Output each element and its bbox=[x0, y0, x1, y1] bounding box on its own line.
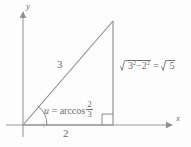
y-axis-label: y bbox=[26, 2, 30, 11]
x-axis-arrowhead bbox=[166, 122, 173, 128]
y-axis-arrowhead bbox=[20, 11, 26, 18]
fraction-denominator: 3 bbox=[86, 109, 93, 119]
base-length-label: 2 bbox=[63, 128, 69, 139]
hypotenuse-length-label: 3 bbox=[57, 59, 63, 70]
radical-right: 5 bbox=[161, 60, 175, 71]
x-axis-label: x bbox=[176, 114, 180, 123]
right-triangle-diagram: y x 2 3 u = arccos 2 3 32−22 = 5 bbox=[0, 0, 191, 147]
right-angle-marker bbox=[102, 114, 113, 125]
angle-equals-glyph: = bbox=[52, 105, 58, 116]
angle-expression: u = arccos 2 3 bbox=[44, 100, 93, 120]
radicand-left: 32−22 bbox=[127, 60, 151, 71]
angle-fraction: 2 3 bbox=[86, 100, 93, 120]
radicand-second-exponent: 2 bbox=[147, 59, 150, 66]
height-expression: 32−22 = 5 bbox=[120, 60, 175, 71]
fraction-numerator: 2 bbox=[86, 100, 93, 109]
radicand-result: 5 bbox=[168, 60, 175, 71]
radical-sign-result-icon bbox=[161, 60, 168, 71]
arccos-function-label: arccos bbox=[60, 105, 86, 116]
radical-sign-icon bbox=[120, 60, 127, 71]
diagram-canvas bbox=[0, 0, 191, 147]
radical-left: 32−22 bbox=[120, 60, 151, 71]
